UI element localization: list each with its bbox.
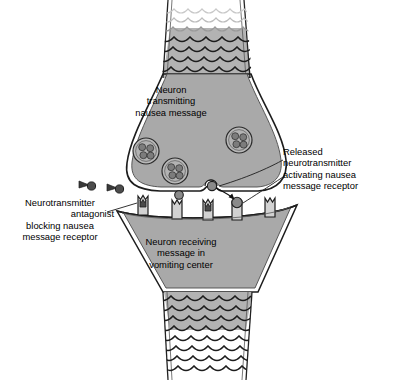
postsynaptic-axon-fill — [164, 292, 252, 330]
released-label-line-2: neurotransmitter — [283, 157, 401, 168]
presynaptic-label-line-1: Neuron — [116, 84, 226, 95]
receptor-2-empty — [172, 200, 182, 219]
antagonist-molecule-1 — [79, 181, 96, 190]
antagonist-label-line-4: message receptor — [4, 231, 116, 242]
free-neurotransmitter-1 — [207, 181, 216, 190]
released-neurotransmitter-label: Released neurotransmitter activating nau… — [283, 146, 401, 192]
vesicle-right — [226, 127, 252, 153]
vesicle-center — [162, 158, 188, 184]
postsynaptic-label-line-1: Neuron receiving — [122, 236, 240, 247]
antagonist-label-line-1: Neurotransmitter — [4, 197, 116, 208]
antagonist-label-line-3: blocking nausea — [4, 220, 116, 231]
synapse-diagram: Neuron transmitting nausea message Neuro… — [0, 0, 405, 380]
released-label-line-1: Released — [283, 146, 401, 157]
receptor-1-blocked — [138, 196, 148, 216]
vesicle-left — [133, 138, 159, 164]
free-neurotransmitter-2 — [175, 191, 184, 200]
release-arrow — [216, 188, 234, 199]
receptor-4-activated — [232, 197, 242, 220]
released-label-line-4: message receptor — [283, 180, 401, 191]
postsynaptic-label-line-3: vomiting center — [122, 259, 240, 270]
antagonist-molecule-2 — [107, 184, 124, 193]
presynaptic-label-line-2: transmitting — [116, 95, 226, 106]
presynaptic-neuron-label: Neuron transmitting nausea message — [116, 84, 226, 118]
postsynaptic-neuron-label: Neuron receiving message in vomiting cen… — [122, 236, 240, 270]
released-label-line-3: activating nausea — [283, 169, 401, 180]
presynaptic-label-line-3: nausea message — [116, 107, 226, 118]
antagonist-label: Neurotransmitter antagonist blocking nau… — [4, 197, 116, 243]
receptor-3-blocked — [203, 200, 213, 221]
antagonist-label-line-2: antagonist — [4, 208, 116, 219]
postsynaptic-axon — [155, 292, 258, 380]
presynaptic-axon — [154, 0, 258, 82]
postsynaptic-label-line-2: message in — [122, 247, 240, 258]
